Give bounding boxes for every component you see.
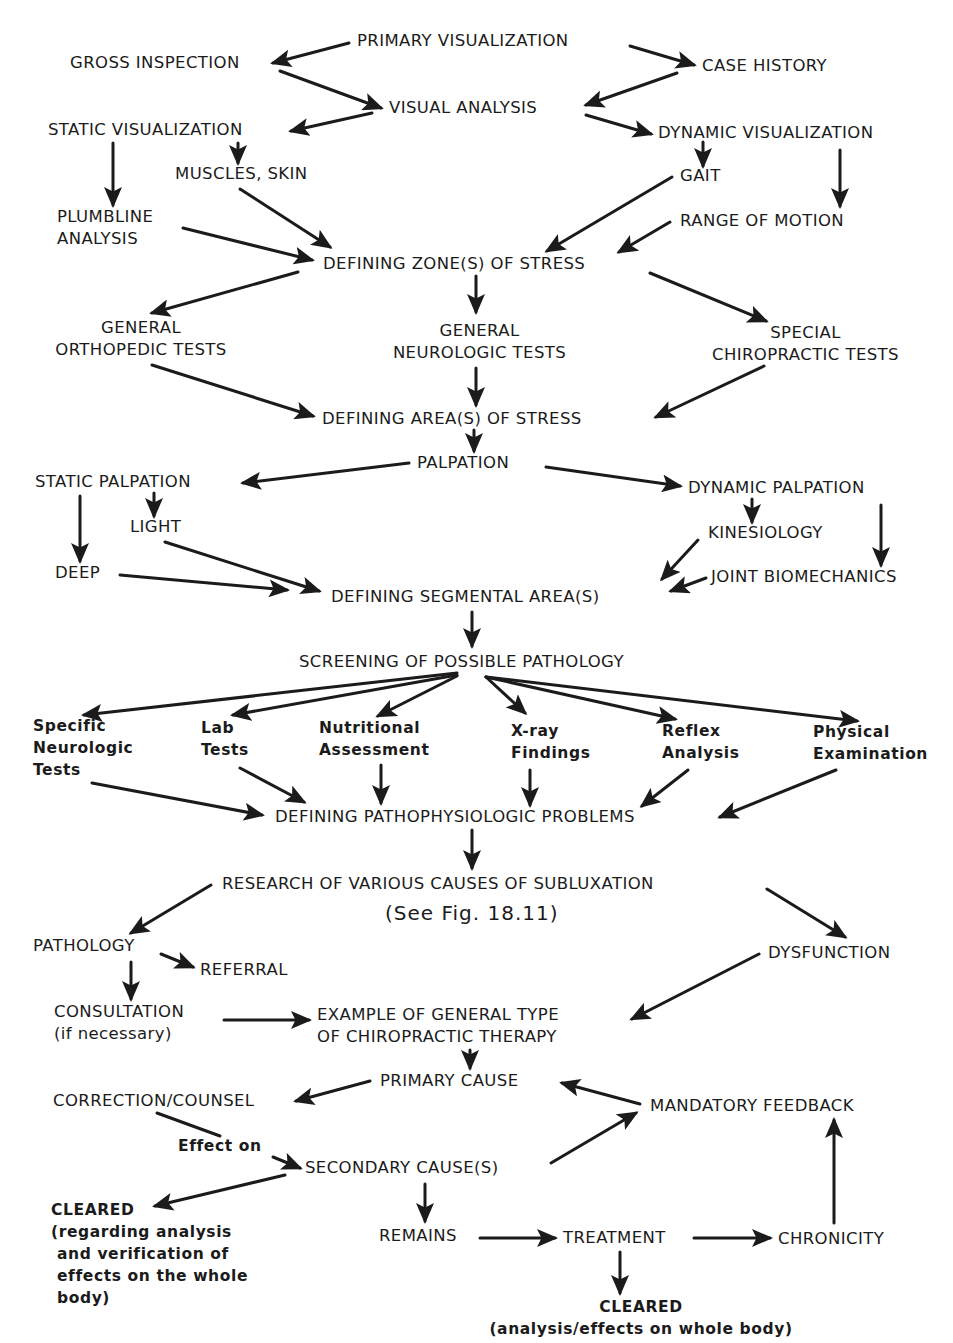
node-cleared-bottom: CLEARED(analysis/effects on whole body) (476, 1296, 806, 1340)
node-static-palpation: STATIC PALPATION (35, 471, 245, 493)
arrow-screening-of-possible-pathology-to-lab-tests (233, 675, 457, 715)
arrow-defining-zones-of-stress-to-general-orthopedic-tests (152, 272, 298, 313)
node-label-line: X-ray (511, 720, 611, 742)
node-dynamic-palpation: DYNAMIC PALPATION (688, 477, 918, 499)
arrow-pathology-to-referral (161, 954, 193, 967)
node-label-line: CASE HISTORY (702, 55, 882, 77)
node-range-of-motion: RANGE OF MOTION (680, 210, 900, 232)
node-label-line: Assessment (319, 739, 439, 761)
node-label-line: RANGE OF MOTION (680, 210, 900, 232)
arrow-gait-to-defining-zones-of-stress (547, 177, 672, 251)
node-label-line: Reflex (662, 720, 762, 742)
node-label-line: DEFINING ZONE(S) OF STRESS (323, 253, 653, 275)
node-label-line: (analysis/effects on whole body) (476, 1318, 806, 1340)
node-label-line: (regarding analysis (51, 1221, 281, 1243)
arrow-mandatory-feedback-to-primary-cause (562, 1083, 640, 1104)
node-defining-zones-of-stress: DEFINING ZONE(S) OF STRESS (323, 253, 653, 275)
arrow-joint-biomechanics-to-defining-segmental-areas (671, 578, 706, 591)
arrow-gross-inspection-to-visual-analysis (280, 71, 381, 108)
node-mandatory-feedback: MANDATORY FEEDBACK (650, 1095, 920, 1117)
arrow-screening-of-possible-pathology-to-nutritional-assessment (378, 676, 457, 716)
arrow-plumbline-analysis-to-defining-zones-of-stress (183, 228, 312, 260)
arrow-lab-tests-to-defining-pathophysiologic-problems (240, 768, 304, 802)
node-special-chiropractic-tests: SPECIALCHIROPRACTIC TESTS (688, 322, 923, 366)
arrow-kinesiology-to-defining-segmental-areas (662, 540, 698, 579)
node-label-line: body) (51, 1287, 281, 1309)
node-palpation: PALPATION (417, 452, 547, 474)
node-label-line: Neurologic (33, 737, 153, 759)
node-label-line: REFERRAL (200, 959, 320, 981)
node-label-line: DEFINING SEGMENTAL AREA(S) (331, 586, 671, 608)
node-treatment: TREATMENT (563, 1227, 693, 1249)
node-label-line: GENERAL (372, 320, 587, 342)
node-label-line: Findings (511, 742, 611, 764)
node-label-line: Tests (33, 759, 153, 781)
arrow-screening-of-possible-pathology-to-xray-findings (486, 677, 525, 713)
arrow-screening-of-possible-pathology-to-reflex-analysis (486, 677, 675, 719)
arrow-specific-neurologic-tests-to-defining-pathophysiologic-problems (92, 783, 262, 815)
node-primary-cause: PRIMARY CAUSE (380, 1070, 560, 1092)
node-reflex-analysis: ReflexAnalysis (662, 720, 762, 764)
arrow-physical-examination-to-defining-pathophysiologic-problems (720, 770, 836, 817)
arrow-defining-zones-of-stress-to-special-chiropractic-tests (650, 273, 766, 321)
node-xray-findings: X-rayFindings (511, 720, 611, 764)
node-label-line: KINESIOLOGY (708, 522, 858, 544)
node-remains: REMAINS (379, 1225, 479, 1247)
node-label-line: SCREENING OF POSSIBLE PATHOLOGY (299, 651, 709, 673)
node-light: LIGHT (130, 516, 200, 538)
node-label-line: RESEARCH OF VARIOUS CAUSES OF SUBLUXATIO… (222, 873, 772, 895)
node-label-line: and verification of (51, 1243, 281, 1265)
node-label-line: Specific (33, 715, 153, 737)
node-label-line: ORTHOPEDIC TESTS (36, 339, 246, 361)
node-label-line: Physical (813, 721, 943, 743)
node-label-line: DEEP (55, 562, 115, 584)
node-label-line: CORRECTION/COUNSEL (53, 1090, 303, 1112)
node-label-line: PLUMBLINE (57, 206, 187, 228)
arrow-primary-visualization-to-gross-inspection (273, 43, 349, 63)
node-lab-tests: LabTests (201, 717, 271, 761)
node-label-line: PRIMARY VISUALIZATION (357, 30, 627, 52)
node-label-line: DEFINING PATHOPHYSIOLOGIC PROBLEMS (275, 806, 725, 828)
arrow-research-of-various-causes-to-dysfunction (767, 889, 845, 937)
node-defining-segmental-areas: DEFINING SEGMENTAL AREA(S) (331, 586, 671, 608)
node-plumbline-analysis: PLUMBLINEANALYSIS (57, 206, 187, 250)
node-general-orthopedic-tests: GENERALORTHOPEDIC TESTS (36, 317, 246, 361)
arrow-special-chiropractic-tests-to-defining-areas-of-stress (656, 366, 764, 417)
node-deep: DEEP (55, 562, 115, 584)
node-label-line: CLEARED (476, 1296, 806, 1318)
node-chronicity: CHRONICITY (778, 1228, 918, 1250)
node-cleared-left: CLEARED(regarding analysis and verificat… (51, 1199, 281, 1309)
node-label-line: STATIC PALPATION (35, 471, 245, 493)
node-label-line: GENERAL (36, 317, 246, 339)
arrow-general-orthopedic-tests-to-defining-areas-of-stress (152, 365, 313, 416)
node-gait: GAIT (680, 165, 740, 187)
node-label-line: MANDATORY FEEDBACK (650, 1095, 920, 1117)
node-label-line: DYNAMIC PALPATION (688, 477, 918, 499)
node-specific-neurologic-tests: SpecificNeurologicTests (33, 715, 153, 781)
arrow-range-of-motion-to-defining-zones-of-stress (619, 222, 670, 252)
node-label-line: NEUROLOGIC TESTS (372, 342, 587, 364)
node-label-line: PALPATION (417, 452, 547, 474)
node-joint-biomechanics: JOINT BIOMECHANICS (711, 566, 941, 588)
node-defining-pathophysiologic-problems: DEFINING PATHOPHYSIOLOGIC PROBLEMS (275, 806, 725, 828)
node-correction-counsel: CORRECTION/COUNSEL (53, 1090, 303, 1112)
node-label-line: VISUAL ANALYSIS (389, 97, 589, 119)
arrow-palpation-to-dynamic-palpation (546, 467, 680, 486)
arrow-screening-of-possible-pathology-to-specific-neurologic-tests (84, 673, 457, 715)
node-label-line: MUSCLES, SKIN (175, 163, 355, 185)
node-label-line: DEFINING AREA(S) OF STRESS (322, 408, 652, 430)
node-label-line: JOINT BIOMECHANICS (711, 566, 941, 588)
arrow-case-history-to-visual-analysis (586, 73, 677, 105)
arrow-visual-analysis-to-static-visualization (291, 113, 372, 131)
node-label-line: DYSFUNCTION (768, 942, 928, 964)
node-label-line: SPECIAL (688, 322, 923, 344)
node-label-line: GROSS INSPECTION (70, 52, 270, 74)
node-label-line: Nutritional (319, 717, 439, 739)
node-kinesiology: KINESIOLOGY (708, 522, 858, 544)
node-consultation: CONSULTATION(if necessary) (54, 1001, 224, 1045)
arrow-primary-cause-to-correction-counsel (296, 1081, 370, 1101)
node-referral: REFERRAL (200, 959, 320, 981)
node-label-line: CONSULTATION (54, 1001, 224, 1023)
arrow-deep-to-defining-segmental-areas (120, 575, 287, 590)
node-label-line: TREATMENT (563, 1227, 693, 1249)
